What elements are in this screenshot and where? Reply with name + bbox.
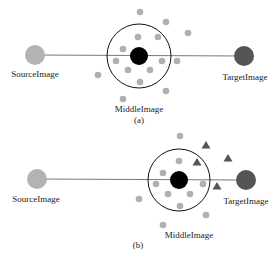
triangle-marker — [213, 182, 222, 190]
panel-a: SourceImage TargetImage MiddleImage (a) — [11, 9, 267, 125]
neighbor-dot — [203, 212, 210, 219]
neighbor-dot — [187, 191, 194, 198]
neighbor-dot — [163, 88, 170, 95]
neighbor-dot — [125, 67, 132, 74]
source-label: SourceImage — [12, 194, 59, 204]
neighbor-dot — [120, 46, 127, 53]
target-image-node — [236, 170, 256, 190]
neighbor-dot — [147, 67, 154, 74]
target-image-node — [234, 46, 254, 66]
neighbor-dot — [155, 34, 162, 41]
middle-label: MiddleImage — [115, 104, 164, 114]
neighbor-dot — [95, 72, 102, 79]
source-target-line — [37, 179, 246, 180]
neighbor-dot — [137, 79, 144, 86]
neighbor-dot — [120, 96, 127, 103]
triangle-markers — [193, 141, 233, 190]
neighbor-dot — [185, 30, 192, 37]
target-label: TargetImage — [223, 196, 268, 206]
source-image-node — [27, 169, 47, 189]
neighbor-dot — [177, 203, 184, 210]
panel-b: SourceImage TargetImage MiddleImage (b) — [12, 133, 268, 250]
target-label: TargetImage — [222, 72, 267, 82]
source-image-node — [25, 45, 45, 65]
neighbor-dot — [137, 9, 144, 16]
panel-caption: (a) — [134, 115, 144, 125]
panel-caption: (b) — [133, 240, 144, 250]
source-label: SourceImage — [11, 69, 58, 79]
neighbor-dot — [113, 58, 120, 65]
triangle-marker — [202, 141, 211, 149]
neighbor-dot — [153, 181, 160, 188]
triangle-marker — [224, 154, 233, 162]
neighbor-dot — [165, 191, 172, 198]
middle-image-node — [170, 171, 188, 189]
neighbor-dot — [135, 34, 142, 41]
neighbor-dot — [200, 181, 207, 188]
neighbor-dot — [163, 19, 170, 26]
middle-image-node — [130, 47, 148, 65]
middle-label: MiddleImage — [165, 230, 214, 240]
neighbor-dot — [160, 222, 167, 229]
neighbor-dot — [159, 58, 166, 65]
neighbor-dot — [177, 133, 184, 140]
diagram-canvas: SourceImage TargetImage MiddleImage (a) … — [0, 0, 279, 259]
neighbor-dot — [174, 58, 181, 65]
triangle-marker — [193, 158, 202, 166]
neighbor-dot — [176, 158, 183, 165]
neighbor-dot — [160, 170, 167, 177]
neighbor-dot — [136, 196, 143, 203]
